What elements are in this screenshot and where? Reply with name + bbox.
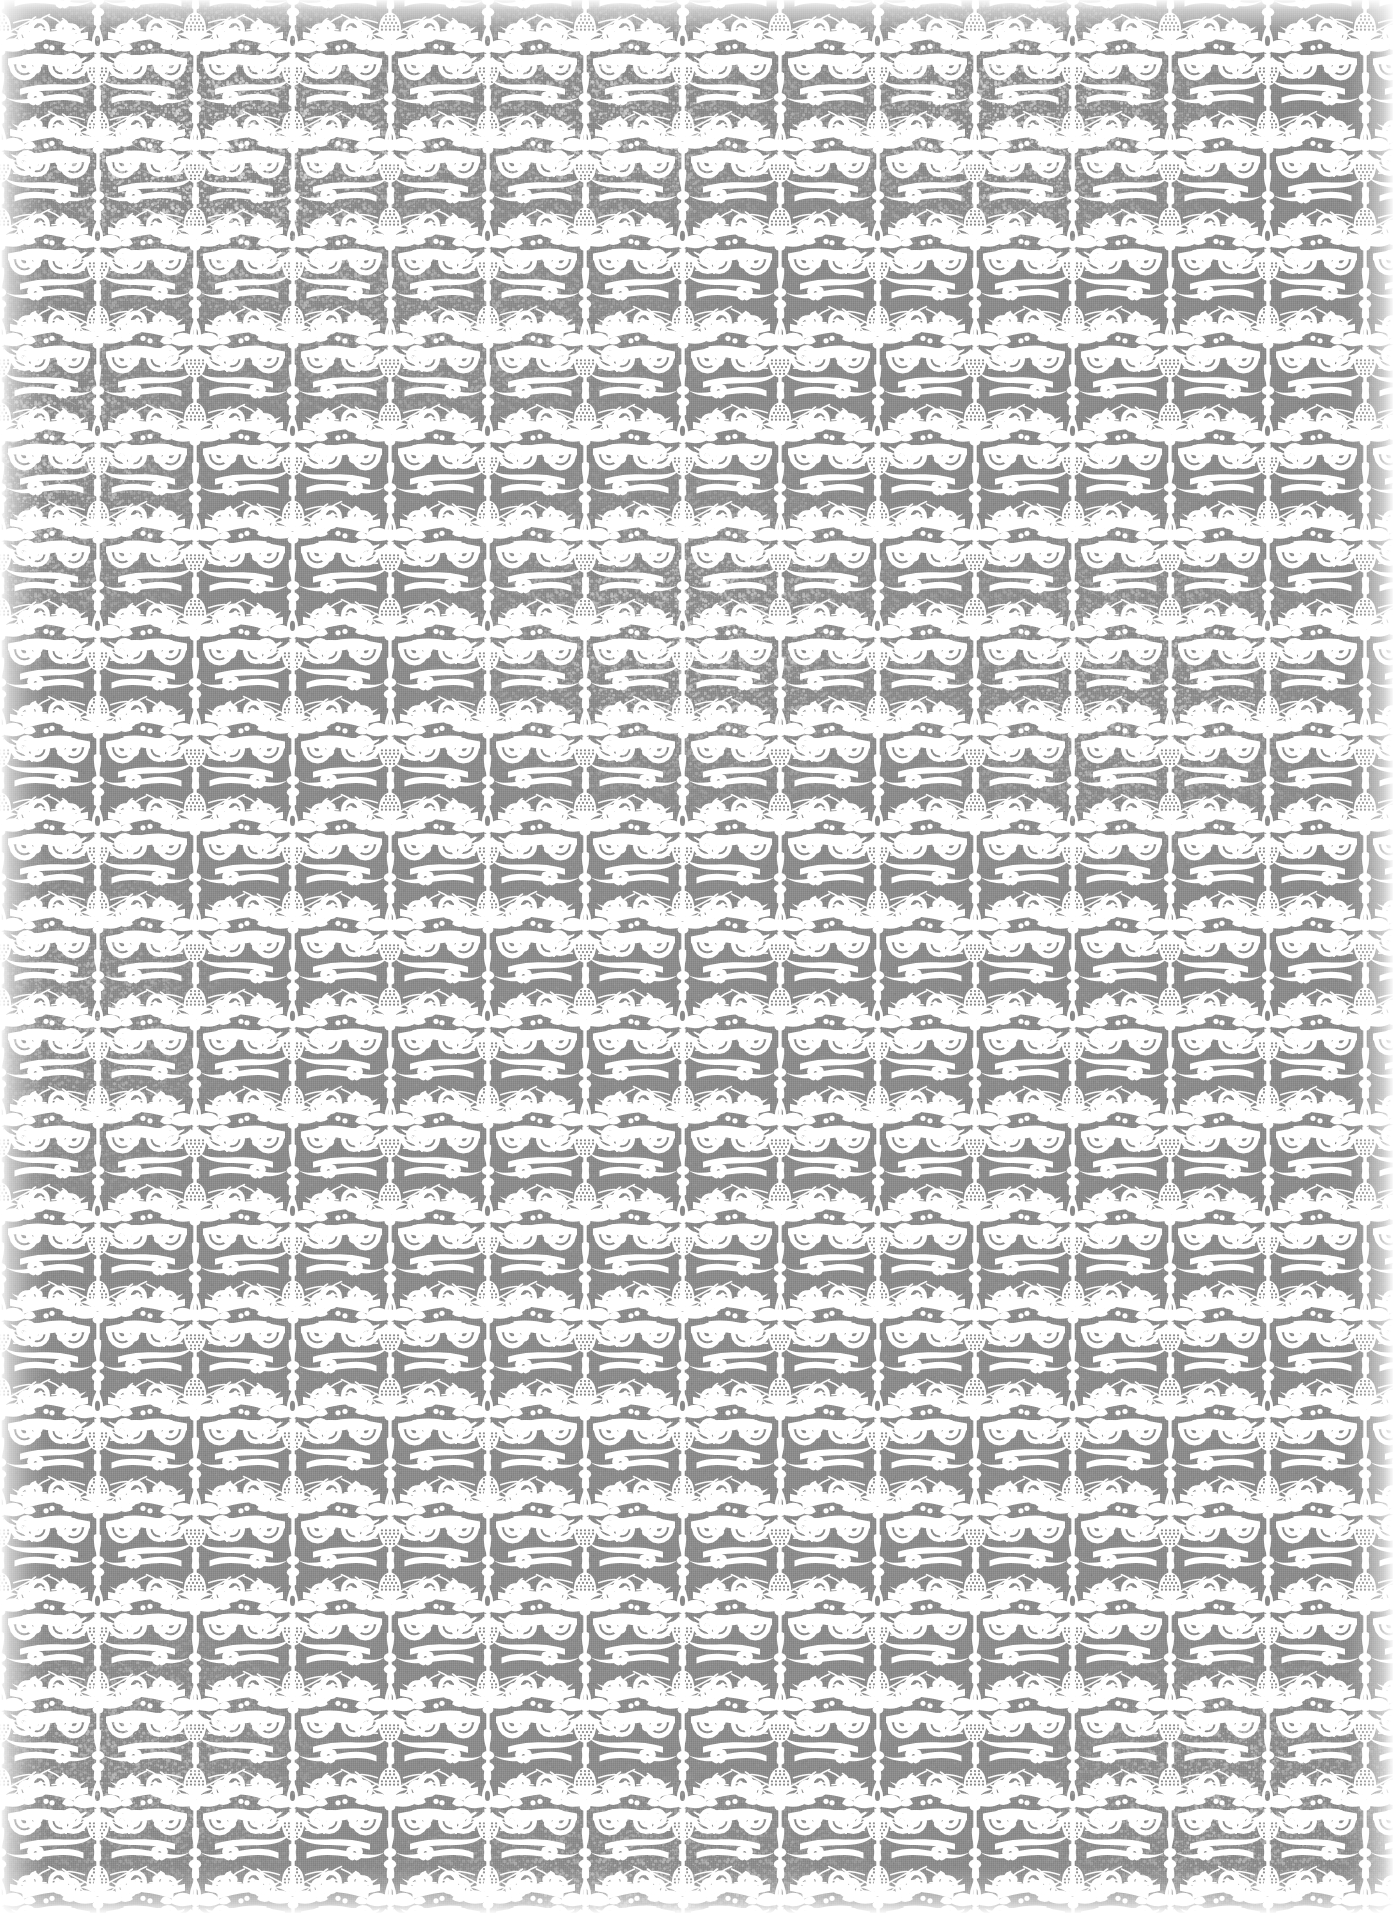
distress-bloom-upper-centre-bloom [0, 0, 1393, 1913]
distress-bloom-upper-right-bloom [0, 0, 1393, 1913]
distress-bloom-lower-left-bloom [0, 0, 1393, 1913]
distress-bloom-upper-band-streak [0, 0, 1393, 1913]
damask-motif-layer [0, 0, 1393, 1913]
canvas-weave-texture-layer [0, 0, 1393, 1913]
wallpaper-canvas [0, 0, 1393, 1913]
ground-color-layer [0, 0, 1393, 1913]
distress-bloom-upper-left-bloom [0, 0, 1393, 1913]
distress-bloom-left-lower-wash [0, 0, 1393, 1913]
distress-bloom-lower-right-bloom [0, 0, 1393, 1913]
paper-grain-layer [0, 0, 1393, 1913]
distress-bloom-mid-centre-bloom [0, 0, 1393, 1913]
distress-bloom-mid-right-bloom [0, 0, 1393, 1913]
edge-vignette-layer [0, 0, 1393, 1913]
distress-bloom-left-edge-wash [0, 0, 1393, 1913]
distress-erosion-layer [0, 0, 1393, 1913]
distress-bloom-bottom-centre-wash [0, 0, 1393, 1913]
